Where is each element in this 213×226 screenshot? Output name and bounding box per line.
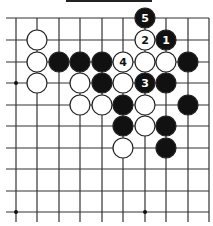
black-stone [113,116,133,136]
white-stone: 4 [113,52,133,72]
white-stone [135,116,155,136]
go-board: 52143 [0,0,213,226]
white-stone [27,30,47,50]
black-stone [156,116,176,136]
white-stone: 2 [135,30,155,50]
black-stone [156,73,176,93]
white-stone [135,95,155,115]
move-number: 4 [119,56,127,69]
black-stone [156,138,176,158]
white-stone [27,73,47,93]
white-stone [70,73,90,93]
white-stone [113,73,133,93]
black-stone [178,52,198,72]
black-stone: 3 [135,73,155,93]
move-number: 2 [141,34,149,47]
white-stone [135,52,155,72]
white-stone [113,138,133,158]
white-stone [27,52,47,72]
move-number: 1 [162,34,170,47]
black-stone [113,95,133,115]
black-stone [178,95,198,115]
star-point [14,210,18,214]
white-stone [70,95,90,115]
star-point [14,81,18,85]
move-number: 3 [141,77,149,90]
white-stone [92,95,112,115]
black-stone [92,52,112,72]
black-stone: 1 [156,30,176,50]
star-point [143,210,147,214]
white-stone [156,52,176,72]
black-stone: 5 [135,8,155,28]
move-number: 5 [141,12,149,25]
black-stone [70,52,90,72]
black-stone [49,52,69,72]
black-stone [92,73,112,93]
